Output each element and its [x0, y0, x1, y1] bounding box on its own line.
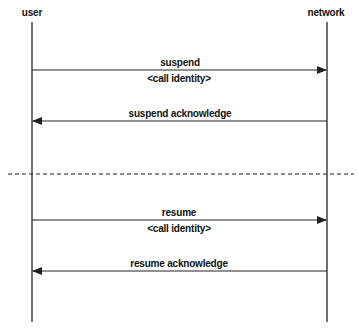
message-param-suspend: <call identity>	[147, 73, 211, 84]
message-param-resume: <call identity>	[147, 223, 211, 234]
participant-user: user	[22, 7, 42, 18]
message-label-suspend: suspend	[160, 57, 200, 68]
sequence-diagram	[0, 0, 359, 331]
message-label-suspend-acknowledge: suspend acknowledge	[129, 108, 232, 119]
message-label-resume: resume	[162, 207, 196, 218]
participant-network: network	[308, 7, 345, 18]
message-label-resume-acknowledge: resume acknowledge	[130, 258, 228, 269]
